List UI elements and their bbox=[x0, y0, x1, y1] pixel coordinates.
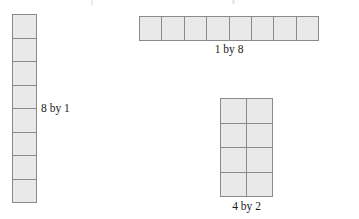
grid-cell bbox=[221, 124, 247, 149]
grid-cell bbox=[274, 17, 296, 41]
grid-cell bbox=[185, 17, 207, 41]
grid-cell bbox=[221, 99, 247, 124]
grid-cell bbox=[13, 86, 37, 110]
figure-canvas: 8 by 1 1 by 8 4 by 2 bbox=[0, 0, 359, 219]
scan-artifact bbox=[232, 0, 235, 4]
grid-cell bbox=[247, 173, 273, 198]
figure-label-1-by-8: 1 by 8 bbox=[215, 44, 244, 56]
grid-cell bbox=[140, 17, 162, 41]
grid-cell bbox=[162, 17, 184, 41]
grid-cell bbox=[207, 17, 229, 41]
grid-cell bbox=[13, 180, 37, 204]
grid-cell bbox=[221, 148, 247, 173]
figure-1-by-8: 1 by 8 bbox=[139, 16, 319, 41]
grid-cell bbox=[13, 39, 37, 63]
grid-cell bbox=[247, 124, 273, 149]
grid-cell bbox=[13, 62, 37, 86]
figure-label-8-by-1: 8 by 1 bbox=[41, 103, 70, 115]
grid-cell bbox=[230, 17, 252, 41]
grid-cell bbox=[297, 17, 319, 41]
grid-cell bbox=[13, 109, 37, 133]
grid-cell bbox=[247, 148, 273, 173]
figure-8-by-1: 8 by 1 bbox=[12, 14, 37, 203]
rectangle-grid-4-by-2 bbox=[220, 98, 273, 197]
scan-artifact bbox=[91, 0, 93, 5]
grid-cell bbox=[252, 17, 274, 41]
figure-label-4-by-2: 4 by 2 bbox=[232, 201, 261, 213]
rectangle-grid-8-by-1 bbox=[12, 14, 37, 203]
grid-cell bbox=[221, 173, 247, 198]
rectangle-grid-1-by-8 bbox=[139, 16, 319, 41]
grid-cell bbox=[13, 156, 37, 180]
grid-cell bbox=[247, 99, 273, 124]
grid-cell bbox=[13, 15, 37, 39]
figure-4-by-2: 4 by 2 bbox=[220, 98, 273, 197]
grid-cell bbox=[13, 133, 37, 157]
